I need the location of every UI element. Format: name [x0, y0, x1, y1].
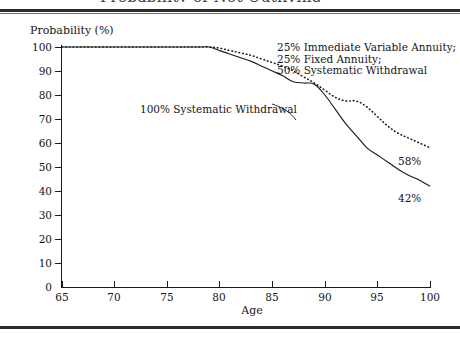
data-label-solid-end: 42% — [398, 192, 421, 204]
annotation-systematic-withdrawal: 100% Systematic Withdrawal — [140, 104, 297, 116]
annotation-annuity-mix: 25% Immediate Variable Annuity; 25% Fixe… — [277, 42, 456, 77]
data-label-dotted-end: 58% — [398, 155, 421, 167]
annotation-annuity-mix-line1: 25% Immediate Variable Annuity; — [277, 42, 456, 54]
annotation-annuity-mix-line3: 50% Systematic Withdrawal — [277, 65, 456, 77]
figure-panel: Probability of Not Outliving Assets by A… — [0, 0, 460, 345]
